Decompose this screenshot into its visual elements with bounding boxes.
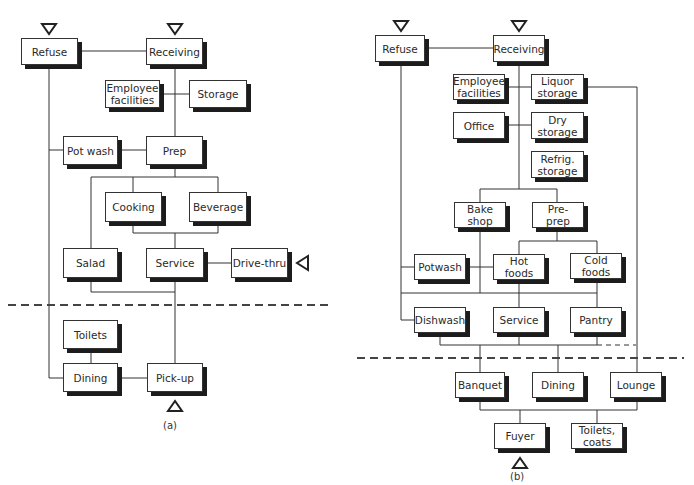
node-receiving-b: Receiving bbox=[493, 35, 545, 62]
node-prep-a: Prep bbox=[146, 136, 203, 165]
caption-a: (a) bbox=[163, 420, 177, 431]
node-service-a: Service bbox=[146, 248, 204, 278]
entry-triangle-receiving-a bbox=[168, 24, 182, 34]
node-hot-foods-b: Hot foods bbox=[493, 254, 545, 280]
node-dishwash-b: Dishwash bbox=[414, 307, 466, 333]
node-receiving-a: Receiving bbox=[146, 38, 203, 65]
node-pot-wash-a: Pot wash bbox=[63, 136, 118, 165]
node-banquet-b: Banquet bbox=[455, 372, 505, 398]
entry-triangle-drivethru-a bbox=[297, 256, 308, 270]
node-toilets-coats-b: Toilets, coats bbox=[571, 423, 623, 449]
node-pantry-b: Pantry bbox=[570, 307, 622, 333]
entry-triangle-refuse-a bbox=[42, 24, 56, 34]
node-salad-a: Salad bbox=[63, 248, 118, 278]
node-beverage-a: Beverage bbox=[189, 192, 247, 222]
node-storage-a: Storage bbox=[189, 80, 247, 108]
node-office-b: Office bbox=[453, 112, 505, 139]
node-employee-facilities-a: Employee facilities bbox=[105, 80, 160, 108]
caption-b: (b) bbox=[510, 471, 524, 482]
node-dining-a: Dining bbox=[63, 363, 118, 392]
node-drive-thru-a: Drive-thru bbox=[231, 248, 288, 278]
node-pre-prep-b: Pre- prep bbox=[532, 202, 584, 228]
node-potwash-b: Potwash bbox=[414, 254, 466, 280]
node-toilets-a: Toilets bbox=[63, 320, 118, 349]
node-dining-b: Dining bbox=[532, 372, 584, 398]
entry-triangle-refuse-b bbox=[394, 21, 408, 31]
node-refuse-a: Refuse bbox=[21, 38, 78, 65]
node-lounge-b: Lounge bbox=[610, 372, 662, 398]
node-employee-facilities-b: Employee facilities bbox=[453, 74, 505, 100]
node-cooking-a: Cooking bbox=[105, 192, 162, 222]
node-service-b: Service bbox=[493, 307, 545, 333]
connector-lines bbox=[0, 0, 694, 485]
entry-triangle-pickup-a bbox=[168, 401, 182, 411]
entry-triangle-receiving-b bbox=[512, 21, 526, 31]
node-refuse-b: Refuse bbox=[375, 35, 425, 62]
node-pick-up-a: Pick-up bbox=[147, 363, 203, 392]
entry-triangle-foyer-b bbox=[513, 458, 527, 468]
node-refrig-storage-b: Refrig. storage bbox=[531, 151, 584, 178]
node-foyer-b: Fuyer bbox=[494, 423, 546, 449]
node-bake-shop-b: Bake shop bbox=[454, 202, 506, 228]
node-dry-storage-b: Dry storage bbox=[531, 112, 584, 139]
node-cold-foods-b: Cold foods bbox=[570, 253, 622, 279]
node-liquor-storage-b: Liquor storage bbox=[531, 74, 584, 100]
